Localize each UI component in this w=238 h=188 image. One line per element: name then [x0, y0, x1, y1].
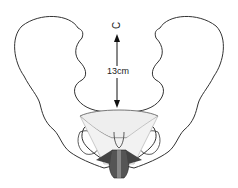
measurement-label: 13cm	[107, 66, 129, 76]
top-marker-label: C	[111, 22, 122, 29]
pelvis-diagram: 13cm C	[0, 0, 238, 188]
arrow-head-up-icon	[114, 34, 120, 42]
pelvic-floor-muscle	[109, 150, 129, 178]
arrow-head-down-icon	[114, 100, 120, 108]
